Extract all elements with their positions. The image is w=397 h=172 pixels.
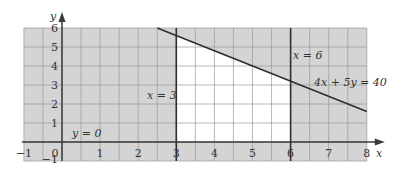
y-tick-label: −1 <box>42 153 58 166</box>
x-tick-label: 5 <box>249 147 256 160</box>
y-tick-label: 4 <box>51 60 58 73</box>
x-tick-label: 4 <box>211 147 218 160</box>
y-tick-label: 3 <box>51 79 58 92</box>
linear-programming-chart: −1012345678−1123456 x = 3 x = 6 4x + 5y … <box>0 0 397 172</box>
label-x-equals-3: x = 3 <box>147 89 176 102</box>
label-x-equals-6: x = 6 <box>293 49 322 62</box>
y-axis-arrow-icon <box>59 12 66 22</box>
x-tick-label: 8 <box>363 147 370 160</box>
y-axis-label: y <box>49 10 57 23</box>
x-tick-label: 7 <box>325 147 332 160</box>
x-tick-label: 6 <box>287 147 294 160</box>
x-tick-label: −1 <box>16 147 32 160</box>
x-tick-label: 3 <box>173 147 180 160</box>
label-constraint: 4x + 5y = 40 <box>313 76 387 89</box>
y-tick-label: 6 <box>51 22 58 35</box>
y-tick-label: 2 <box>51 98 58 111</box>
x-axis-label: x <box>376 147 383 160</box>
x-axis-arrow-icon <box>375 139 385 146</box>
x-tick-label: 2 <box>135 147 142 160</box>
y-tick-label: 5 <box>51 41 58 54</box>
label-y-equals-0: y = 0 <box>71 127 101 140</box>
x-tick-label: 1 <box>97 147 104 160</box>
y-tick-label: 1 <box>51 117 58 130</box>
